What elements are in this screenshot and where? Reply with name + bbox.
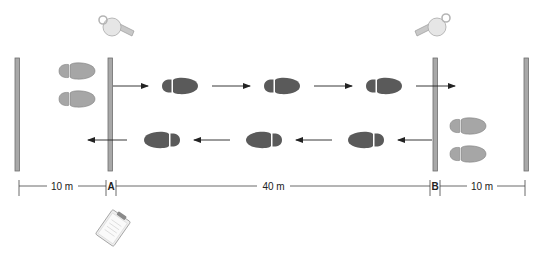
dimension-right-label: 10 m [471,181,493,192]
footprint-icon [450,118,486,162]
whistle-icon [99,16,134,36]
footprint-icon [59,63,95,107]
dimension-course-label: 40 m [262,181,284,192]
marker-b-label: B [431,181,438,192]
footprint-icon [144,132,384,148]
pole-right-outer [524,58,529,171]
marker-a-label: A [107,181,114,192]
clipboard-icon [95,208,131,247]
shuttle-test-diagram: 10 m A 40 m B 10 m [0,0,541,258]
pole-a [108,58,113,171]
dimension-left-label: 10 m [51,181,73,192]
footprint-icon [162,78,402,94]
pole-b [433,58,438,171]
whistle-icon [415,14,450,36]
pole-left-outer [15,58,20,171]
